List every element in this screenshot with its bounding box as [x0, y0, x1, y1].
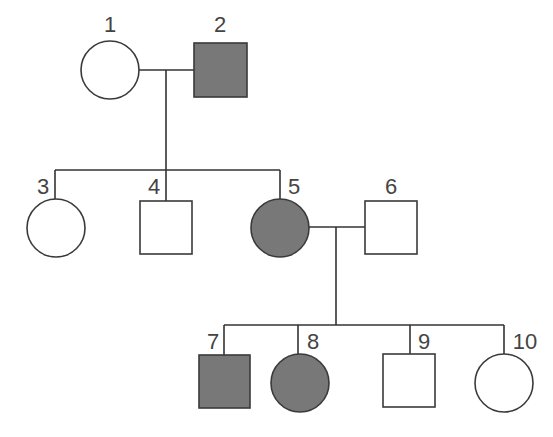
individual-5-female-affected [251, 199, 309, 257]
individual-10-female-unaffected [475, 354, 533, 412]
individual-1-female-unaffected [81, 41, 139, 99]
label-8: 8 [307, 329, 319, 354]
label-7: 7 [207, 329, 219, 354]
label-6: 6 [385, 174, 397, 199]
individual-2-male-affected [194, 43, 247, 97]
label-2: 2 [214, 12, 226, 37]
label-10: 10 [513, 329, 537, 354]
label-5: 5 [288, 174, 300, 199]
individual-4-male-unaffected [140, 201, 192, 254]
pedigree-chart: 1 2 3 4 5 6 7 8 9 10 [0, 0, 553, 437]
individual-9-male-unaffected [383, 354, 435, 407]
label-9: 9 [418, 329, 430, 354]
label-1: 1 [104, 12, 116, 37]
individual-3-female-unaffected [27, 199, 85, 257]
individual-7-male-affected [199, 355, 250, 408]
individual-6-male-unaffected [365, 201, 417, 254]
label-3: 3 [37, 174, 49, 199]
label-4: 4 [148, 174, 160, 199]
individual-8-female-affected [271, 354, 329, 412]
